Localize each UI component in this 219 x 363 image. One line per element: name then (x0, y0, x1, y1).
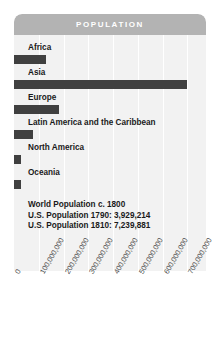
page-title: POPULATION (76, 20, 144, 29)
bar-category-label: Latin America and the Caribbean (14, 116, 206, 129)
chart-header: POPULATION (14, 14, 206, 35)
bar-group: North America (14, 141, 206, 164)
bar-group: Europe (14, 91, 206, 114)
bar (14, 80, 187, 89)
population-chart-panel: POPULATION AfricaAsiaEuropeLatin America… (14, 14, 206, 271)
x-axis-tick-labels: 0100,000,000200,000,000300,000,000400,00… (14, 271, 206, 363)
bar-group: Latin America and the Caribbean (14, 116, 206, 139)
bar-category-label: Oceania (14, 166, 206, 179)
bar-group: Oceania (14, 166, 206, 189)
bar (14, 155, 21, 164)
bar-category-label: Europe (14, 91, 206, 104)
chart-plot-area: AfricaAsiaEuropeLatin America and the Ca… (14, 35, 206, 189)
chart-footnote: World Population c. 1800U.S. Population … (14, 191, 206, 232)
bar (14, 55, 46, 64)
footnote-line: U.S. Population 1790: 3,929,214 (28, 211, 206, 222)
bar (14, 105, 59, 114)
bar (14, 130, 33, 139)
bar-category-label: North America (14, 141, 206, 154)
bar-category-label: Africa (14, 41, 206, 54)
footnote-line: World Population c. 1800 (28, 200, 206, 211)
bar-category-label: Asia (14, 66, 206, 79)
bar-group: Asia (14, 66, 206, 89)
bar (14, 180, 21, 189)
footnote-line: U.S. Population 1810: 7,239,881 (28, 221, 206, 232)
bar-group: Africa (14, 41, 206, 64)
